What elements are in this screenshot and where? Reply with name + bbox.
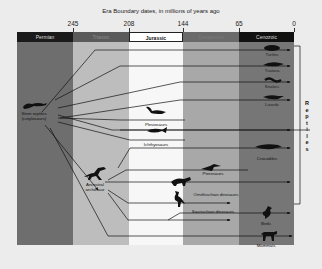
mammal-silhouette-icon — [260, 230, 278, 242]
ichthyosaur-silhouette-icon — [146, 126, 168, 134]
label-saurischian-dinosaurs: Saurischian dinosaurs — [184, 209, 242, 214]
label-pterosaurs: Pterosaurs — [196, 171, 230, 176]
turtle-silhouette-icon — [262, 45, 282, 51]
label-birds: Birds — [254, 221, 278, 226]
letter: s — [303, 146, 311, 153]
bracket-label-reptiles: R e p t i l e s — [303, 100, 311, 152]
stem-reptile-silhouette-icon — [22, 101, 48, 110]
label-crocodiles: Crocodiles — [250, 156, 284, 161]
saurischian-silhouette-icon — [172, 190, 186, 208]
plesiosaur-silhouette-icon — [144, 105, 168, 115]
label-ichthyosaurs: Ichthyosaurs — [138, 142, 174, 147]
label-mammals: Mammals — [252, 243, 280, 248]
label-ornithischian-dinosaurs: Ornithischian dinosaurs — [186, 192, 246, 197]
label-tuatara: Tuatara — [258, 68, 286, 73]
snake-silhouette-icon — [264, 77, 282, 83]
tuatara-silhouette-icon — [262, 61, 284, 67]
label-stem-reptiles-2: (cotylosaurs) — [16, 116, 52, 121]
lineage-lines — [0, 0, 322, 269]
archosaur-silhouette-icon — [82, 165, 108, 181]
bird-silhouette-icon — [260, 205, 274, 219]
ornithischian-silhouette-icon — [170, 176, 192, 186]
label-ancestral-archosaur-2: archosaur — [80, 187, 110, 192]
label-turtles: Turtles — [258, 52, 286, 57]
crocodile-silhouette-icon — [254, 143, 282, 151]
lizard-silhouette-icon — [262, 94, 284, 100]
label-lizards: Lizards — [258, 102, 286, 107]
label-snakes: Snakes — [258, 84, 286, 89]
